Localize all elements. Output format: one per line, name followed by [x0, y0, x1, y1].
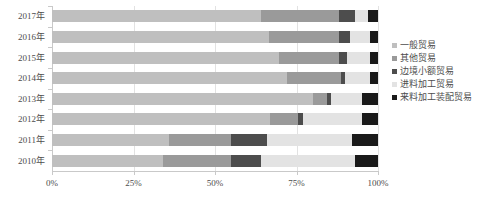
chart-legend: 一般贸易其他贸易边境小额贸易进料加工贸易来料加工装配贸易	[392, 40, 472, 103]
bar-segment	[163, 155, 231, 167]
bar-row	[52, 93, 378, 105]
bar-segment	[279, 52, 339, 64]
y-axis-label: 2015年	[18, 52, 45, 64]
bar-segment	[368, 10, 378, 22]
bar-segment	[362, 113, 378, 125]
legend-item[interactable]: 进料加工贸易	[392, 79, 472, 90]
bar-segment	[52, 134, 169, 146]
legend-item[interactable]: 来料加工装配贸易	[392, 92, 472, 103]
bar-segment	[345, 72, 369, 84]
legend-item[interactable]: 一般贸易	[392, 40, 472, 51]
bar-segment	[270, 113, 298, 125]
bar-segment	[370, 31, 378, 43]
bar-segment	[313, 93, 328, 105]
x-axis-tick	[378, 171, 379, 175]
y-axis-label: 2016年	[18, 31, 45, 43]
bar-row	[52, 52, 378, 64]
bar-segment	[287, 72, 341, 84]
legend-label: 边境小额贸易	[400, 66, 454, 77]
bar-segment	[267, 134, 352, 146]
bar-segment	[269, 31, 339, 43]
x-axis-label: 0%	[46, 178, 58, 189]
bar-segment	[261, 155, 356, 167]
legend-swatch-icon	[392, 95, 397, 100]
stacked-bar-chart: 2017年2016年2015年2014年2013年2012年2011年2010年…	[0, 0, 494, 204]
bar-segment	[52, 113, 270, 125]
y-axis-label: 2014年	[18, 72, 45, 84]
x-axis-tick	[215, 171, 216, 175]
bar-row	[52, 134, 378, 146]
bar-segment	[52, 10, 261, 22]
plot-area	[52, 6, 378, 171]
bar-segment	[355, 10, 368, 22]
y-axis-labels: 2017年2016年2015年2014年2013年2012年2011年2010年	[0, 6, 50, 171]
bar-segment	[231, 155, 260, 167]
legend-item[interactable]: 边境小额贸易	[392, 66, 472, 77]
bar-row	[52, 72, 378, 84]
bar-segment	[231, 134, 267, 146]
x-axis-tick	[297, 171, 298, 175]
y-axis-label: 2012年	[18, 113, 45, 125]
bar-segment	[261, 10, 339, 22]
bar-row	[52, 31, 378, 43]
y-axis-label: 2010年	[18, 155, 45, 167]
x-axis-tick	[52, 171, 53, 175]
bar-segment	[339, 31, 350, 43]
x-axis-tick	[134, 171, 135, 175]
bar-segment	[339, 10, 355, 22]
bar-segment	[303, 113, 362, 125]
bar-segment	[339, 52, 347, 64]
gridline-100	[378, 6, 379, 171]
bar-segment	[370, 52, 378, 64]
bar-segment	[370, 72, 378, 84]
legend-label: 一般贸易	[400, 40, 436, 51]
bar-segment	[355, 155, 378, 167]
bar-segment	[362, 93, 378, 105]
bar-row	[52, 10, 378, 22]
bar-segment	[52, 72, 287, 84]
bar-row	[52, 113, 378, 125]
legend-label: 其他贸易	[400, 53, 436, 64]
bar-series-container	[52, 6, 378, 171]
legend-label: 来料加工装配贸易	[400, 92, 472, 103]
bar-segment	[347, 52, 370, 64]
y-axis-label: 2013年	[18, 93, 45, 105]
bar-segment	[350, 31, 370, 43]
bar-segment	[169, 134, 231, 146]
bar-segment	[52, 31, 269, 43]
bar-segment	[52, 52, 279, 64]
bar-segment	[352, 134, 378, 146]
x-axis-label: 100%	[368, 178, 389, 189]
x-axis-label: 25%	[125, 178, 142, 189]
bar-segment	[331, 93, 362, 105]
x-axis-label: 75%	[288, 178, 305, 189]
x-axis-label: 50%	[207, 178, 224, 189]
y-axis-label: 2017年	[18, 10, 45, 22]
legend-swatch-icon	[392, 82, 397, 87]
legend-swatch-icon	[392, 69, 397, 74]
bar-segment	[52, 155, 163, 167]
y-axis-label: 2011年	[18, 134, 45, 146]
legend-swatch-icon	[392, 43, 397, 48]
legend-item[interactable]: 其他贸易	[392, 53, 472, 64]
legend-swatch-icon	[392, 56, 397, 61]
bar-row	[52, 155, 378, 167]
bar-segment	[52, 93, 313, 105]
legend-label: 进料加工贸易	[400, 79, 454, 90]
